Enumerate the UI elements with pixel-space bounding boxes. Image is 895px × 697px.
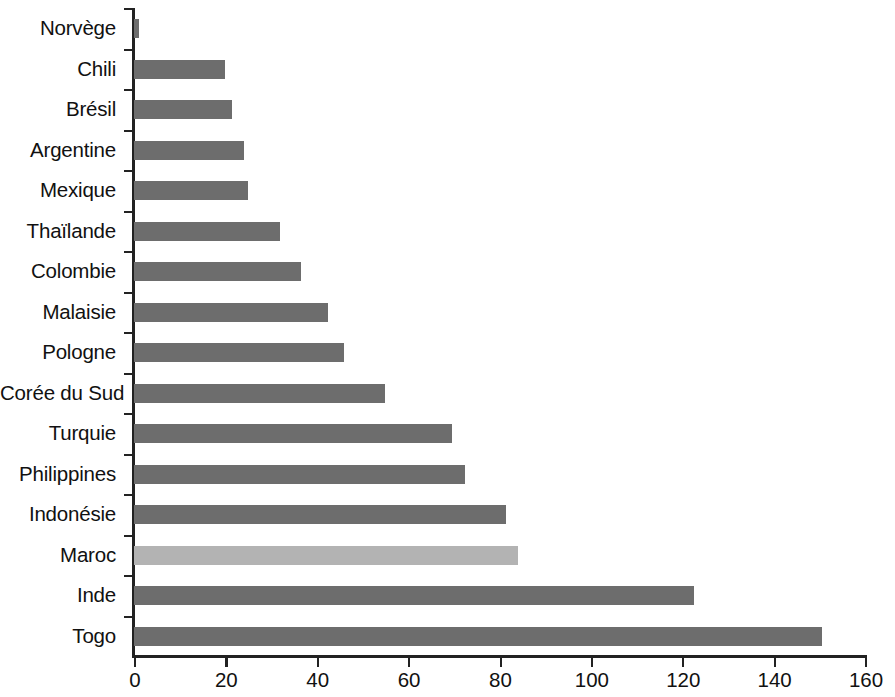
category-label: Norvège — [0, 18, 124, 39]
category-label: Inde — [0, 585, 124, 606]
category-label: Pologne — [0, 342, 124, 363]
bar-togo — [134, 627, 822, 646]
bar-row — [134, 332, 865, 373]
bar-row — [134, 454, 865, 495]
category-label: Thaïlande — [0, 221, 124, 242]
bar-row — [134, 292, 865, 333]
bar-malaisie — [134, 303, 328, 322]
x-axis-tick — [591, 657, 593, 667]
x-axis-tick — [134, 657, 136, 667]
x-axis-tick-label: 140 — [758, 670, 792, 691]
category-label: Brésil — [0, 99, 124, 120]
category-label: Malaisie — [0, 302, 124, 323]
plot-area — [134, 8, 865, 656]
bar-row — [134, 49, 865, 90]
x-axis-tick-label: 40 — [306, 670, 329, 691]
x-axis-tick — [225, 657, 227, 667]
category-label: Philippines — [0, 464, 124, 485]
bar-maroc — [134, 546, 518, 565]
category-label: Togo — [0, 626, 124, 647]
category-label: Mexique — [0, 180, 124, 201]
x-axis-tick-label: 20 — [215, 670, 238, 691]
bar-bresil — [134, 100, 232, 119]
bar-philippines — [134, 465, 465, 484]
x-axis-tick-label: 80 — [489, 670, 512, 691]
x-axis-tick — [682, 657, 684, 667]
bar-coree-du-sud — [134, 384, 385, 403]
bar-row — [134, 170, 865, 211]
bar-row — [134, 575, 865, 616]
category-label: Corée du Sud — [0, 383, 124, 404]
x-axis-tick-label: 120 — [666, 670, 700, 691]
bar-row — [134, 616, 865, 657]
bar-colombie — [134, 262, 301, 281]
x-axis-tick — [774, 657, 776, 667]
x-axis-tick — [865, 657, 867, 667]
x-axis-tick — [500, 657, 502, 667]
bar-turquie — [134, 424, 452, 443]
x-axis-tick-label: 60 — [398, 670, 421, 691]
bar-pologne — [134, 343, 344, 362]
x-axis-tick — [408, 657, 410, 667]
bar-row — [134, 251, 865, 292]
bar-argentine — [134, 141, 244, 160]
bar-row — [134, 373, 865, 414]
x-axis-tick-label: 100 — [575, 670, 609, 691]
category-label: Chili — [0, 59, 124, 80]
bar-row — [134, 89, 865, 130]
bar-chili — [134, 60, 225, 79]
bar-mexique — [134, 181, 248, 200]
bar-row — [134, 130, 865, 171]
category-label: Maroc — [0, 545, 124, 566]
category-label: Indonésie — [0, 504, 124, 525]
category-label: Turquie — [0, 423, 124, 444]
x-axis-tick-label: 0 — [129, 670, 140, 691]
bar-chart: Norvège Chili Brésil Argentine Mexique T… — [0, 0, 895, 697]
bar-row — [134, 413, 865, 454]
bar-row — [134, 535, 865, 576]
bar-row — [134, 494, 865, 535]
category-label: Argentine — [0, 140, 124, 161]
category-label: Colombie — [0, 261, 124, 282]
x-axis-tick-label: 160 — [849, 670, 883, 691]
bar-norvege — [134, 19, 139, 38]
bar-indonesie — [134, 505, 506, 524]
bar-row — [134, 8, 865, 49]
bar-inde — [134, 586, 694, 605]
bar-row — [134, 211, 865, 252]
bar-thailande — [134, 222, 280, 241]
x-axis-tick — [317, 657, 319, 667]
